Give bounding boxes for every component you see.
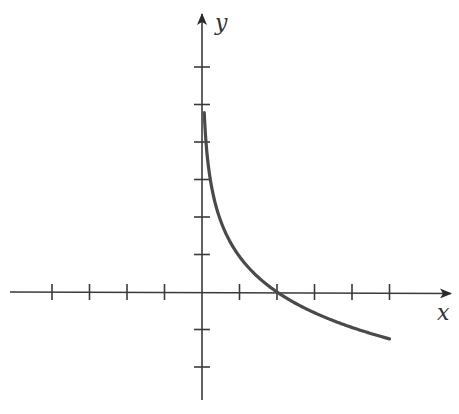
y-axis-label: y bbox=[214, 10, 228, 35]
x-axis-label: x bbox=[437, 300, 450, 325]
function-curve bbox=[204, 113, 389, 339]
graph-canvas: x y bbox=[0, 0, 459, 414]
x-axis bbox=[10, 292, 451, 294]
